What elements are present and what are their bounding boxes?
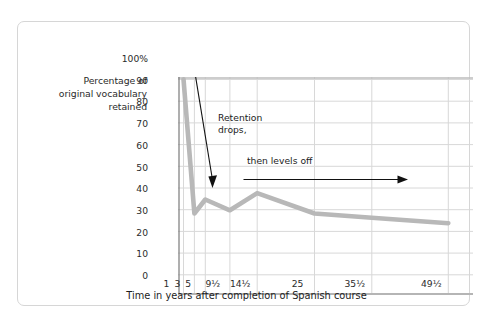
x-tick-label-49-5: 49½	[421, 278, 442, 289]
y-tick-label-0: 0	[110, 270, 148, 281]
annotation-retention-drops-line-2: drops,	[218, 124, 262, 136]
y-tick-label-20: 20	[110, 227, 148, 238]
y-tick-label-70: 70	[110, 118, 148, 129]
x-tick-label-3: 3	[174, 278, 180, 289]
x-axis-title: Time in years after completion of Spanis…	[0, 290, 493, 301]
chart-svg	[178, 77, 473, 295]
annotation-then-levels-off: then levels off	[247, 155, 312, 167]
x-tick-label-5: 5	[185, 278, 191, 289]
annotation-retention-drops: Retention drops,	[218, 112, 262, 137]
then-levels-off-arrow-icon	[244, 175, 409, 183]
chart-card: Percentage of original vocabulary retain…	[17, 21, 470, 306]
y-tick-label-100: 100%	[110, 53, 148, 64]
chart-screenshot: Percentage of original vocabulary retain…	[0, 0, 493, 328]
y-tick-label-10: 10	[110, 248, 148, 259]
y-tick-label-30: 30	[110, 205, 148, 216]
vertical-gridlines	[184, 77, 449, 294]
y-tick-label-90: 90	[110, 75, 148, 86]
x-tick-label-1: 1	[164, 278, 170, 289]
y-tick-label-40: 40	[110, 183, 148, 194]
x-tick-label-25: 25	[292, 278, 304, 289]
horizontal-gridlines	[178, 80, 473, 275]
x-tick-label-35-5: 35½	[344, 278, 365, 289]
y-tick-label-80: 80	[110, 96, 148, 107]
y-tick-label-50: 50	[110, 162, 148, 173]
plot-area	[178, 77, 473, 295]
x-tick-label-9-5: 9½	[206, 278, 221, 289]
x-tick-label-14-5: 14½	[230, 278, 251, 289]
y-tick-label-60: 60	[110, 140, 148, 151]
annotation-retention-drops-line-1: Retention	[218, 112, 262, 124]
retention-drops-arrow-icon	[195, 77, 217, 188]
